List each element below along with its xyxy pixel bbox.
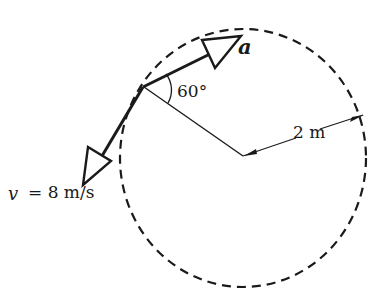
acceleration-arrowhead xyxy=(202,36,241,68)
angle-arc xyxy=(166,74,171,103)
radius-label: 2 m xyxy=(293,122,325,142)
velocity-vector-shaft xyxy=(102,87,143,156)
diagram-svg xyxy=(0,0,381,303)
velocity-variable-label: v xyxy=(8,183,18,204)
angle-label: 60° xyxy=(177,81,207,101)
velocity-arrowhead xyxy=(83,147,111,185)
circular-path xyxy=(120,29,366,287)
diagram-canvas: a 60° 2 m v = 8 m/s xyxy=(0,0,381,303)
velocity-value-label: = 8 m/s xyxy=(28,182,94,202)
dimension-arrowhead-left xyxy=(244,149,257,156)
acceleration-label: a xyxy=(238,34,252,59)
